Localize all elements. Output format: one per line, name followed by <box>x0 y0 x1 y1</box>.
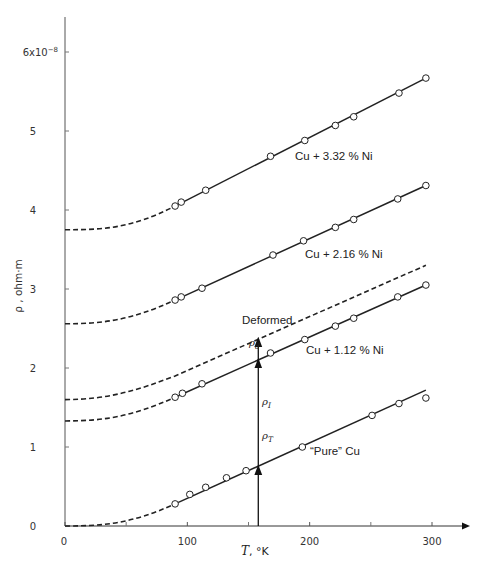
data-point <box>423 182 430 189</box>
data-point <box>202 187 209 194</box>
resistivity-chart: 0100200300012345 Cu + 3.32 % Ni Cu + 2.1… <box>0 0 485 570</box>
data-point <box>350 216 357 223</box>
data-point <box>301 137 308 144</box>
label-cu-1-12-ni: Cu + 1.12 % Ni <box>306 344 384 356</box>
data-point <box>423 395 430 402</box>
data-point <box>267 153 274 160</box>
label-cu-2-16-ni: Cu + 2.16 % Ni <box>305 248 383 260</box>
y-axis-title: ρ , ohm·m <box>12 259 24 313</box>
data-point <box>394 294 401 301</box>
x-tick-label: 300 <box>422 536 441 547</box>
data-point <box>350 113 357 120</box>
data-point <box>394 196 401 203</box>
y-tick-label: 0 <box>30 521 36 532</box>
data-point <box>350 315 357 322</box>
data-point <box>396 400 403 407</box>
x-axis-title: T, °K <box>241 544 270 558</box>
label-pure-cu: “Pure” Cu <box>310 445 360 457</box>
curve-extrapolation <box>65 504 175 526</box>
data-point <box>172 394 179 401</box>
data-point <box>202 484 209 491</box>
curve-deformed <box>65 265 426 399</box>
data-point <box>301 336 308 343</box>
data-point <box>172 203 179 210</box>
x-tick-label: 0 <box>61 536 67 547</box>
data-point <box>423 75 430 82</box>
y-tick-label: 1 <box>30 442 36 453</box>
data-point <box>243 467 250 474</box>
data-point <box>332 224 339 231</box>
curve-extrapolation <box>65 300 175 324</box>
rho-i-label: ρI <box>261 396 272 410</box>
data-point <box>299 444 306 451</box>
data-point <box>172 501 179 508</box>
curve-extrapolation <box>65 397 175 421</box>
x-tick-label: 100 <box>178 536 197 547</box>
curve-linear <box>175 285 426 397</box>
data-point <box>179 390 186 397</box>
label-deformed: Deformed <box>242 314 293 326</box>
data-point <box>267 350 274 357</box>
label-cu-3-32-ni: Cu + 3.32 % Ni <box>295 150 373 162</box>
data-point <box>172 297 179 304</box>
curves <box>65 78 426 526</box>
data-point <box>199 381 206 388</box>
curve-linear <box>175 78 426 206</box>
data-point <box>186 491 193 498</box>
data-point <box>332 122 339 129</box>
rho-t-label: ρT <box>261 430 274 444</box>
data-point <box>199 285 206 292</box>
data-point <box>369 412 376 419</box>
data-point <box>178 199 185 206</box>
data-point <box>423 282 430 289</box>
tick-labels: 0100200300012345 <box>30 126 442 547</box>
y-tick-label: 2 <box>30 363 36 374</box>
data-point <box>178 294 185 301</box>
y-tick-label: 4 <box>30 205 36 216</box>
data-point <box>396 90 403 97</box>
data-point <box>332 323 339 330</box>
x-tick-label: 200 <box>300 536 319 547</box>
data-point <box>300 238 307 245</box>
curve-extrapolation <box>65 206 175 230</box>
data-point <box>223 475 230 482</box>
y-tick-label: 5 <box>30 126 36 137</box>
data-point <box>270 252 277 259</box>
y-tick-label: 3 <box>30 284 36 295</box>
y-tick-6: 6x10−8 <box>23 46 58 58</box>
data-points <box>172 75 429 507</box>
x-axis-arrow-icon <box>462 523 470 530</box>
